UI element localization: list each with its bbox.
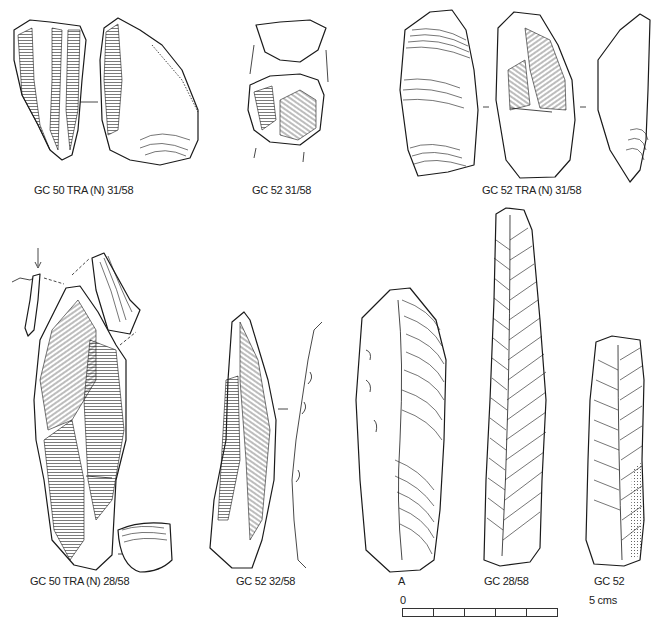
artifact-label: A — [398, 575, 405, 587]
scale-segment — [527, 609, 557, 616]
scale-segment — [496, 609, 527, 616]
artifact-drawings — [0, 0, 660, 623]
artifact-gc52-tra-n-31-58 — [400, 10, 650, 182]
lithic-illustration-plate: GC 50 TRA (N) 31/58 GC 52 31/58 GC 52 TR… — [0, 0, 660, 623]
artifact-gc52-31-58 — [248, 20, 328, 162]
artifact-gc50-tra-n-31-58 — [14, 18, 198, 165]
scale-segment — [434, 609, 465, 616]
artifact-label: GC 52 32/58 — [236, 575, 295, 587]
artifact-label: GC 28/58 — [484, 575, 529, 587]
artifact-gc28-58 — [484, 208, 546, 566]
scale-segment — [403, 609, 434, 616]
scale-start-label: 0 — [400, 594, 406, 606]
scale-segment — [465, 609, 496, 616]
artifact-a — [356, 288, 446, 572]
scale-bar — [402, 608, 558, 617]
artifact-gc52 — [586, 336, 644, 566]
artifact-gc52-32-58 — [210, 312, 322, 568]
artifact-label: GC 50 TRA (N) 28/58 — [30, 575, 129, 587]
scale-end-label: 5 cms — [589, 594, 617, 606]
artifact-gc50-tra-n-28-58 — [12, 248, 172, 572]
artifact-label: GC 52 TRA (N) 31/58 — [482, 184, 581, 196]
artifact-label: GC 52 — [594, 575, 624, 587]
artifact-label: GC 50 TRA (N) 31/58 — [34, 184, 133, 196]
artifact-label: GC 52 31/58 — [252, 184, 311, 196]
